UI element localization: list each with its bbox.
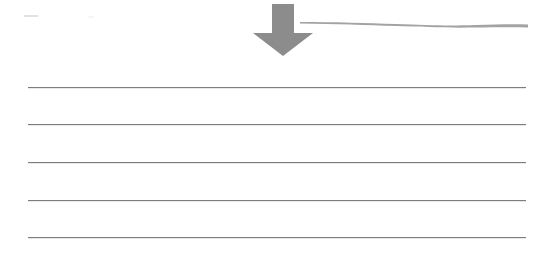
writing-line-2	[28, 124, 526, 125]
worksheet-canvas	[0, 0, 551, 253]
writing-line-1	[28, 87, 526, 88]
writing-line-5	[28, 237, 526, 238]
faint-mark-decoration	[0, 0, 120, 30]
writing-line-4	[28, 200, 526, 201]
brush-stroke-decoration	[296, 16, 536, 32]
writing-line-3	[28, 162, 526, 163]
